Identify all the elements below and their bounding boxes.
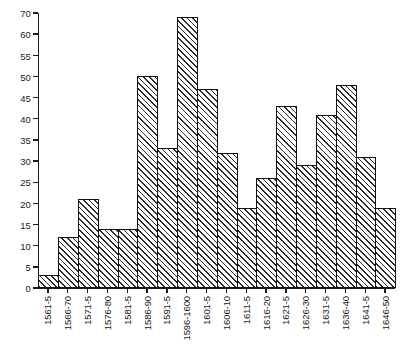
bar [336,85,357,288]
bar [117,229,138,288]
bar [98,229,119,288]
x-tick-label: 1566-70 [62,296,73,330]
x-tick-mark [246,289,247,293]
y-tick-label: 55 [20,51,30,61]
x-tick-label: 1626-30 [300,296,311,330]
y-tick-label: 70 [20,9,30,19]
y-tick-label: 0 [25,284,30,294]
x-tick-label: 1636-40 [340,296,351,330]
x-tick-label: 1611-5 [241,296,252,324]
bar [276,106,297,288]
x-tick-mark [265,289,266,293]
bar [58,237,79,288]
y-tick-label: 10 [20,241,30,251]
y-tick-label: 50 [20,72,30,82]
x-tick-mark [384,289,385,293]
x-axis: 1561-51566-701571-51576-801581-51586-901… [38,289,395,346]
histogram-chart: 05101520253035404550556070 1561-51566-70… [0,0,404,346]
bar [316,115,337,288]
x-tick-mark [127,289,128,293]
x-tick-mark [166,289,167,293]
bar [355,157,376,288]
bar [217,153,238,288]
bar [177,17,198,288]
x-tick-mark [305,289,306,293]
y-tick-label: 5 [25,263,30,273]
x-tick-mark [226,289,227,293]
x-tick-mark [285,289,286,293]
y-tick-label: 60 [20,30,30,40]
x-tick-label: 1606-10 [221,296,232,330]
bar [157,148,178,288]
x-tick-label: 1571-5 [82,296,93,325]
x-tick-mark [186,289,187,293]
x-tick-mark [47,289,48,293]
x-tick-mark [107,289,108,293]
bar [197,89,218,288]
x-tick-label: 1641-5 [360,296,371,325]
x-tick-label: 1631-5 [320,296,331,325]
bar [38,275,59,288]
x-tick-label: 1646-50 [380,296,391,330]
bar [236,208,257,288]
x-tick-label: 1601-5 [201,296,212,325]
x-tick-mark [146,289,147,293]
y-tick-label: 20 [20,199,30,209]
y-tick-label: 25 [20,178,30,188]
x-tick-label: 1561-5 [42,296,53,325]
x-tick-label: 1596-1600 [181,296,192,341]
x-tick-label: 1591-5 [161,296,172,325]
bar [375,208,396,288]
bar [296,165,317,288]
bar-series [38,13,395,288]
y-tick-label: 35 [20,136,30,146]
y-tick-label: 45 [20,93,30,103]
x-tick-label: 1621-5 [280,296,291,325]
x-tick-mark [325,289,326,293]
x-tick-mark [206,289,207,293]
y-axis: 05101520253035404550556070 [0,13,38,288]
x-tick-label: 1586-90 [142,296,153,330]
y-tick-label: 30 [20,157,30,167]
plot-area [38,13,395,288]
y-tick-label: 40 [20,115,30,125]
y-tick-label: 15 [20,220,30,230]
x-tick-label: 1616-20 [261,296,272,330]
x-tick-label: 1576-80 [102,296,113,330]
bar [256,178,277,288]
bar [78,199,99,288]
x-tick-mark [87,289,88,293]
x-tick-mark [67,289,68,293]
x-tick-label: 1581-5 [122,296,133,325]
x-tick-mark [345,289,346,293]
bar [137,76,158,288]
x-tick-mark [365,289,366,293]
